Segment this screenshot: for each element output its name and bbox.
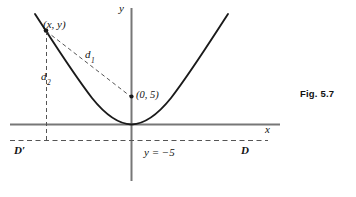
d2-base: d: [41, 70, 47, 82]
directrix-equation-label: y = −5: [144, 147, 175, 158]
distance-d2-label: d2: [41, 71, 50, 85]
directrix-right-endpoint-label: D: [241, 145, 249, 156]
y-axis-label: y: [119, 3, 124, 14]
distance-d1-label: d1: [85, 49, 94, 63]
d2-subscript: 2: [47, 78, 51, 87]
focus-point-label: (0, 5): [136, 90, 159, 101]
figure-container: (x, y) d1 d2 (0, 5) y x y = −5 D′ D Fig.…: [0, 0, 356, 197]
d1-subscript: 1: [91, 56, 95, 65]
x-axis-label: x: [265, 124, 270, 135]
directrix-left-endpoint-label: D′: [14, 145, 25, 156]
d1-base: d: [85, 48, 91, 60]
segment-d1: [46, 31, 130, 96]
figure-caption: Fig. 5.7: [300, 88, 334, 99]
point-xy-label: (x, y): [43, 19, 66, 30]
focus-point-marker: [129, 94, 133, 98]
